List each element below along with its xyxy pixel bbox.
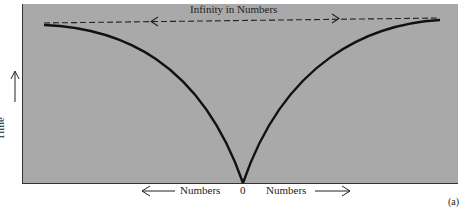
diagram-graphics (0, 0, 470, 214)
x-right-arrow-icon (315, 186, 350, 196)
y-axis-label: Time (0, 117, 6, 140)
time-arrow-icon (11, 71, 19, 102)
x-axis-origin-label: 0 (240, 184, 246, 196)
x-axis-right-label: Numbers (266, 184, 306, 196)
figure-tag: (a) (448, 196, 459, 207)
infinity-label: Infinity in Numbers (190, 3, 277, 15)
arrow-right-icon (332, 14, 339, 23)
right-curve (243, 20, 440, 183)
x-axis-left-label: Numbers (180, 184, 220, 196)
x-left-arrow-icon (142, 186, 175, 196)
infinity-dashed-line (44, 14, 440, 26)
left-curve (44, 25, 243, 183)
